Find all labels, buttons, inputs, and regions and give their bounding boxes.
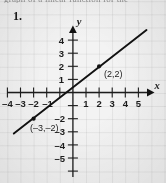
y-axis-arrow-icon bbox=[69, 26, 77, 34]
y-tick-label: 2 bbox=[59, 61, 64, 72]
y-tick-label: 4 bbox=[59, 35, 65, 46]
y-tick-label: 1 bbox=[59, 74, 65, 85]
x-axis-label: x bbox=[153, 80, 159, 91]
x-tick-label: 4 bbox=[123, 98, 129, 109]
y-tick-label: –4 bbox=[54, 140, 65, 151]
x-tick-label: –3 bbox=[15, 98, 26, 109]
x-axis-arrow-icon bbox=[147, 89, 155, 97]
y-tick-label: 3 bbox=[59, 48, 64, 59]
x-tick-labels: –4 –3 –2 –1 1 2 3 4 5 bbox=[2, 98, 142, 109]
y-tick-labels: 4 3 2 1 –2 –3 –4 –5 bbox=[54, 35, 65, 164]
y-axis-label: y bbox=[75, 16, 82, 27]
worksheet-page: graph of a linear function for the 1. bbox=[0, 0, 166, 183]
coordinate-plane: –4 –3 –2 –1 1 2 3 4 5 4 3 2 1 –2 –3 –4 –… bbox=[0, 0, 166, 183]
x-tick-label: 2 bbox=[96, 98, 101, 109]
x-tick-label: 3 bbox=[110, 98, 115, 109]
x-tick-label: 5 bbox=[136, 98, 142, 109]
plotted-point: (2,2) bbox=[97, 64, 123, 79]
x-axis bbox=[7, 88, 155, 98]
x-tick-label: –4 bbox=[2, 98, 13, 109]
x-tick-label: –2 bbox=[28, 98, 39, 109]
y-axis bbox=[68, 26, 78, 178]
point-marker bbox=[97, 64, 101, 68]
x-tick-label: 1 bbox=[83, 98, 89, 109]
point-marker bbox=[31, 117, 35, 121]
point-label: (–3,–2) bbox=[30, 123, 59, 133]
point-label: (2,2) bbox=[104, 69, 123, 79]
y-tick-label: –5 bbox=[54, 153, 65, 164]
